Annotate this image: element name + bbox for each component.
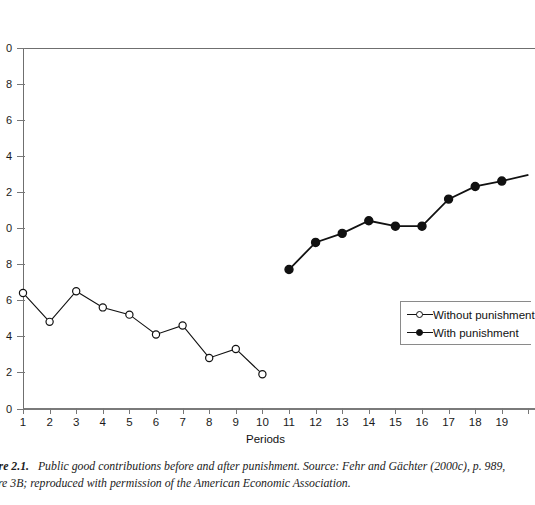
x-axis-label: 9 [223, 416, 249, 428]
y-axis-tick [17, 372, 25, 373]
y-axis-tick [17, 264, 25, 265]
x-axis-label: 11 [276, 416, 302, 428]
x-axis-tick [23, 408, 24, 414]
x-axis-label: 6 [143, 416, 169, 428]
x-axis-label: 1 [10, 416, 36, 428]
x-axis-title: Periods [0, 433, 531, 445]
y-axis-label: 0 [0, 43, 12, 53]
y-axis-tick [17, 120, 25, 121]
x-axis-tick [183, 408, 184, 414]
filled-circle-icon [407, 326, 433, 340]
y-axis-label: 2 [0, 367, 12, 377]
caption-line-2: ure 3B; reproduced with permission of th… [0, 476, 351, 490]
x-axis-tick [449, 408, 450, 414]
y-axis-tick [17, 48, 25, 49]
x-axis-label: 5 [116, 416, 142, 428]
x-axis-label: 19 [489, 416, 515, 428]
x-axis-label: 15 [382, 416, 408, 428]
x-axis-tick [316, 408, 317, 414]
x-axis-tick [502, 408, 503, 414]
x-axis-tick [528, 408, 529, 414]
y-axis-tick [17, 228, 25, 229]
x-axis-label: 3 [63, 416, 89, 428]
x-axis-label: 18 [462, 416, 488, 428]
x-axis-label: 17 [436, 416, 462, 428]
x-axis-tick [209, 408, 210, 414]
y-axis-label: 2 [0, 187, 12, 197]
y-axis-tick [17, 192, 25, 193]
y-axis-label: 8 [0, 259, 12, 269]
x-axis-tick [475, 408, 476, 414]
x-axis-tick [369, 408, 370, 414]
x-axis-label: 16 [409, 416, 435, 428]
y-axis-tick [17, 84, 25, 85]
legend: Without punishment With punishment [400, 301, 531, 345]
x-axis-label: 4 [90, 416, 116, 428]
caption-figure-number: ure 2.1. [0, 459, 29, 473]
legend-label: With punishment [433, 327, 519, 339]
x-axis-tick [156, 408, 157, 414]
x-axis-tick [422, 408, 423, 414]
x-axis-label: 7 [170, 416, 196, 428]
figure-caption: ure 2.1. Public good contributions befor… [0, 458, 531, 492]
x-axis-label: 12 [303, 416, 329, 428]
x-axis-line [23, 408, 535, 410]
y-axis-label: 6 [0, 115, 12, 125]
y-axis-tick [17, 300, 25, 301]
caption-line-1: Public good contributions before and aft… [38, 459, 505, 473]
y-axis-tick [17, 156, 25, 157]
x-axis-tick [129, 408, 130, 414]
x-axis-tick [76, 408, 77, 414]
y-axis-label: 4 [0, 151, 12, 161]
x-axis-label: 14 [356, 416, 382, 428]
x-axis-label: 2 [37, 416, 63, 428]
plot-area [23, 48, 535, 409]
y-axis-label: 0 [0, 223, 12, 233]
open-circle-icon [407, 308, 433, 322]
x-axis-tick [289, 408, 290, 414]
x-axis-tick [50, 408, 51, 414]
x-axis-tick [342, 408, 343, 414]
y-axis-label: 6 [0, 295, 12, 305]
y-axis-label: 4 [0, 331, 12, 341]
y-axis-tick [17, 336, 25, 337]
legend-label: Without punishment [433, 309, 535, 321]
x-axis-tick [103, 408, 104, 414]
y-axis-label: 0 [0, 404, 12, 414]
x-axis-tick [262, 408, 263, 414]
y-axis-label: 8 [0, 79, 12, 89]
x-axis-label: 13 [329, 416, 355, 428]
legend-item-without-punishment: Without punishment [407, 306, 531, 324]
x-axis-label: 8 [196, 416, 222, 428]
legend-item-with-punishment: With punishment [407, 324, 531, 342]
x-axis-label: 10 [249, 416, 275, 428]
x-axis-tick [236, 408, 237, 414]
x-axis-tick [395, 408, 396, 414]
